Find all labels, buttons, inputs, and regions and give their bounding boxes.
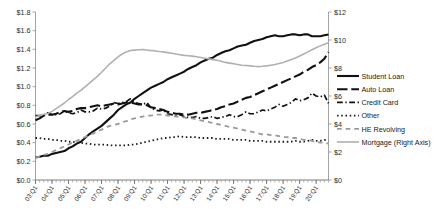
y-axis-right-tick-label: $6 [334, 92, 342, 101]
x-axis-tick-label: 13:Q1 [188, 184, 205, 203]
y-axis-left-tick-label: $0.6 [17, 120, 31, 129]
y-axis-left-tick-label: $0.2 [17, 157, 31, 166]
legend-label: Student Loan [362, 72, 405, 81]
y-axis-left-tick-label: $1.6 [17, 26, 31, 35]
legend-label: Auto Loan [362, 85, 395, 94]
legend-label: Mortgage (Right Axis) [362, 138, 431, 147]
x-axis-tick-label: 14:Q1 [205, 184, 222, 203]
x-axis-tick-label: 06:Q1 [73, 184, 90, 203]
y-axis-right: $12$10$8$6$4$2$0 [329, 8, 347, 185]
y-axis-left-tick-label: $1.4 [17, 45, 31, 54]
y-axis-left-tick-label: $1.2 [17, 64, 31, 73]
y-axis-right-tick-label: $2 [334, 148, 342, 157]
x-axis-tick-label: 18:Q1 [271, 184, 288, 203]
y-axis-right-tick-label: $4 [334, 120, 342, 129]
y-axis-right-tick-label: $12 [334, 8, 346, 17]
y-axis-left-tick-label: $0.0 [17, 176, 31, 185]
x-axis-tick-label: 07:Q1 [89, 184, 106, 203]
x-axis: 03:Q104:Q105:Q106:Q107:Q108:Q109:Q110:Q1… [23, 180, 329, 203]
x-axis-tick-label: 19:Q1 [287, 184, 304, 203]
plot-series-group [36, 34, 329, 157]
x-axis-tick-label: 12:Q1 [172, 184, 189, 203]
line-chart: $1.8$1.6$1.4$1.2$1.0$0.8$0.6$0.4$0.2$0.0… [0, 0, 439, 218]
y-axis-left-tick-label: $1.0 [17, 82, 31, 91]
y-axis-left-tick-label: $0.8 [17, 101, 31, 110]
x-axis-tick-label: 09:Q1 [122, 184, 139, 203]
legend-label: Other [362, 111, 381, 120]
x-axis-tick-label: 15:Q1 [221, 184, 238, 203]
y-axis-right-tick-label: $10 [334, 36, 346, 45]
x-axis-tick-label: 16:Q1 [238, 184, 255, 203]
x-axis-tick-label: 04:Q1 [39, 184, 56, 203]
x-axis-tick-label: 05:Q1 [56, 184, 73, 203]
y-axis-left: $1.8$1.6$1.4$1.2$1.0$0.8$0.6$0.4$0.2$0.0 [17, 8, 36, 185]
y-axis-right-tick-label: $0 [334, 176, 342, 185]
x-axis-tick-label: 11:Q1 [155, 184, 172, 203]
x-axis-tick-label: 17:Q1 [254, 184, 271, 203]
x-axis-tick-label: 20:Q1 [304, 184, 321, 203]
y-axis-right-tick-label: $8 [334, 64, 342, 73]
y-axis-left-tick-label: $1.8 [17, 8, 31, 17]
chart-container: $1.8$1.6$1.4$1.2$1.0$0.8$0.6$0.4$0.2$0.0… [0, 0, 439, 218]
y-axis-left-tick-label: $0.4 [17, 138, 31, 147]
legend-label: HE Revolving [362, 125, 406, 134]
legend-label: Credit Card [362, 98, 399, 107]
x-axis-tick-label: 08:Q1 [106, 184, 123, 203]
x-axis-tick-label: 03:Q1 [23, 184, 40, 203]
legend: Student LoanAuto LoanCredit CardOtherHE … [337, 72, 431, 147]
x-axis-tick-label: 10:Q1 [139, 184, 156, 203]
